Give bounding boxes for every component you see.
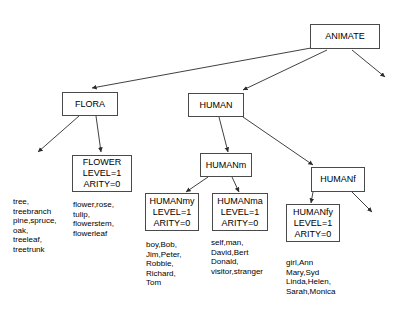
node-humanf-label: HUMANf [320, 174, 356, 185]
node-humanmy-label: HUMANmy [150, 196, 195, 207]
leaf-list-humanma: self,man, David,Bert Donald, visitor,str… [211, 238, 263, 276]
node-humanfy-label: HUMANfy [293, 207, 333, 218]
node-humanfy-arity: ARITY=0 [295, 229, 332, 240]
node-human[interactable]: HUMAN [188, 93, 244, 117]
leaf-list-humanmy: boy,Bob, Jim,Peter, Robbie, Richard, Tom [146, 240, 182, 288]
node-humanma-label: HUMANma [217, 196, 263, 207]
node-human-label: HUMAN [200, 100, 233, 111]
node-flower-arity: ARITY=0 [84, 179, 121, 190]
node-humanm[interactable]: HUMANm [200, 153, 252, 177]
edge-human-humanm [219, 117, 228, 152]
edge-flora-flower [96, 116, 101, 152]
edge-humanf-humanfy [311, 192, 313, 203]
diagram-canvas: ANIMATE FLORA HUMAN FLOWER LEVEL=1 ARITY… [0, 0, 400, 312]
node-humanmy-arity: ARITY=0 [154, 218, 191, 229]
edge-animate-flora [92, 48, 311, 88]
node-humanfy[interactable]: HUMANfy LEVEL=1 ARITY=0 [286, 204, 340, 242]
node-humanmy[interactable]: HUMANmy LEVEL=1 ARITY=0 [145, 193, 199, 231]
node-animate-label: ANIMATE [325, 31, 364, 42]
node-humanf[interactable]: HUMANf [311, 167, 365, 192]
node-humanma-arity: ARITY=0 [222, 218, 259, 229]
node-flower-level: LEVEL=1 [83, 168, 121, 179]
node-flower-label: FLOWER [83, 157, 122, 168]
node-humanfy-level: LEVEL=1 [294, 218, 332, 229]
leaf-list-humanfy: girl,Ann Mary,Syd Linda,Helen, Sarah,Mon… [286, 258, 335, 296]
node-flora[interactable]: FLORA [62, 92, 118, 116]
edge-human-humanf [243, 117, 313, 165]
edge-animate-human [243, 50, 327, 90]
edge-humanm-humanma [232, 177, 239, 192]
leaf-list-tree: tree, treebranch pine,spruce, oak, treel… [13, 197, 57, 255]
node-humanm-label: HUMANm [206, 160, 247, 171]
node-flora-label: FLORA [75, 99, 105, 110]
node-humanma[interactable]: HUMANma LEVEL=1 ARITY=0 [212, 193, 268, 231]
edge-humanf-other [352, 192, 372, 212]
node-flower[interactable]: FLOWER LEVEL=1 ARITY=0 [72, 155, 132, 192]
node-animate[interactable]: ANIMATE [310, 24, 380, 49]
edge-animate-other [352, 50, 385, 77]
edge-humanm-humanmy [186, 177, 208, 192]
node-humanma-level: LEVEL=1 [221, 207, 259, 218]
leaf-list-flower: flower,rose, tulip, flowerstem, flowerle… [73, 200, 114, 238]
edge-flora-tree [38, 116, 79, 152]
node-humanmy-level: LEVEL=1 [153, 207, 191, 218]
